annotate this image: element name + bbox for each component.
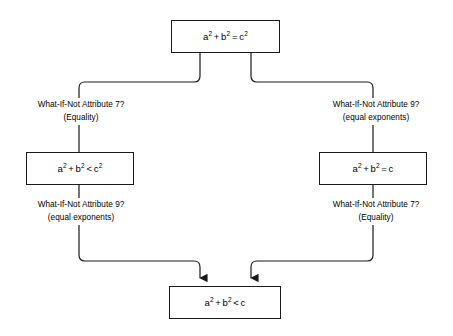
node-right-equation: a2+b2=c — [319, 152, 427, 185]
edge-label-right-bottom: What-If-Not Attribute 7? (Equality) — [303, 198, 449, 225]
node-top-equation: a2+b2=c2 — [171, 20, 280, 53]
node-left-equation: a2+b2<c2 — [26, 152, 134, 185]
edge-label-left-top-line2: (Equality) — [10, 112, 152, 125]
edge-label-right-bottom-line1: What-If-Not Attribute 7? — [333, 200, 420, 209]
edge-label-left-top-line1: What-If-Not Attribute 7? — [38, 100, 125, 109]
edge-label-left-bottom: What-If-Not Attribute 9? (equal exponent… — [8, 198, 154, 225]
edge-label-right-top-line1: What-If-Not Attribute 9? — [333, 100, 420, 109]
flowchart-diagram: a2+b2=c2 a2+b2<c2 a2+b2=c a2+b2<c What-I… — [0, 0, 453, 336]
node-top-label: a2+b2=c2 — [203, 32, 248, 42]
edge-label-right-bottom-line2: (Equality) — [305, 212, 447, 225]
edge-label-left-bottom-line2: (equal exponents) — [10, 212, 152, 225]
edge-label-left-bottom-line1: What-If-Not Attribute 9? — [38, 200, 125, 209]
node-right-label: a2+b2=c — [352, 164, 393, 174]
node-left-label: a2+b2<c2 — [58, 164, 103, 174]
edge-label-left-top: What-If-Not Attribute 7? (Equality) — [8, 98, 154, 125]
edge-label-right-top-line2: (equal exponents) — [305, 112, 447, 125]
edge-label-right-top: What-If-Not Attribute 9? (equal exponent… — [303, 98, 449, 125]
node-bottom-equation: a2+b2<c — [169, 286, 281, 319]
node-bottom-label: a2+b2<c — [204, 298, 245, 308]
